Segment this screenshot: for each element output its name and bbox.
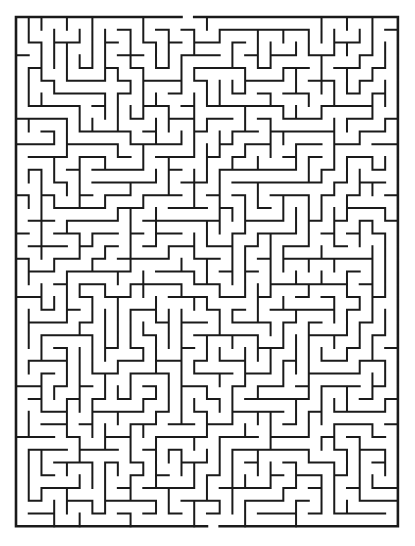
maze-page [0,0,415,546]
maze-graphic [0,0,415,546]
